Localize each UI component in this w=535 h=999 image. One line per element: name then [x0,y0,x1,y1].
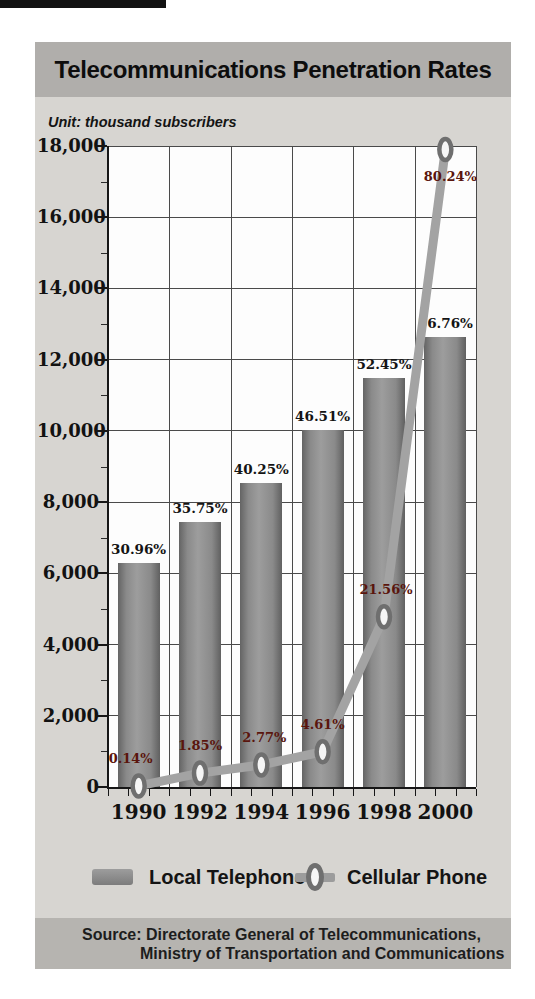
source-line-2: Ministry of Transportation and Communica… [140,944,504,963]
x-minor-tick [108,789,109,796]
y-major-tick [96,359,107,361]
x-axis-line [107,787,477,789]
x-minor-tick [353,789,354,796]
plot-region: 02,0004,0006,0008,00010,00012,00014,0001… [35,42,511,969]
x-axis-label-1998: 1998 [352,800,416,824]
y-major-tick [96,430,107,432]
scanned-page: Telecommunications Penetration Rates Uni… [0,0,535,999]
bar-label-1994: 40.25% [221,461,301,477]
y-major-tick [96,572,107,574]
y-axis-label: 2,000 [37,705,99,726]
legend-label-cellular-phone: Cellular Phone [347,866,487,889]
cellular-label-1990: 0.14% [91,751,171,766]
v-gridline [169,146,170,787]
bar-label-1990: 30.96% [99,541,179,557]
cellular-label-1998: 21.56% [346,582,426,597]
x-minor-tick [374,789,375,796]
x-minor-tick [128,789,129,796]
source-line-1: Source: Directorate General of Telecommu… [82,925,481,944]
y-axis-label: 0 [37,776,99,797]
y-major-tick [96,145,107,147]
y-major-tick [96,287,107,289]
y-major-tick [96,501,107,503]
x-minor-tick [231,789,232,796]
x-axis-label-1994: 1994 [229,800,293,824]
chart-card: Telecommunications Penetration Rates Uni… [35,42,511,969]
x-axis-label-1990: 1990 [107,800,171,824]
x-minor-tick [190,789,191,796]
x-minor-tick [435,789,436,796]
bar-label-1996: 46.51% [283,408,363,424]
x-minor-tick [149,789,150,796]
x-minor-tick [476,789,477,796]
bar-label-1998: 52.45% [344,356,424,372]
line-ring-swatch-icon [295,860,335,894]
y-axis-label: 12,000 [37,349,99,370]
y-major-tick [96,644,107,646]
x-minor-tick [169,789,170,796]
v-gridline [415,146,416,787]
legend-label-local-telephone: Local Telephone [149,866,305,889]
cellular-label-2000: 80.24% [410,169,490,184]
x-axis-label-1992: 1992 [168,800,232,824]
legend-item-local-telephone: Local Telephone [92,860,305,894]
legend: Local Telephone Cellular Phone [35,860,511,894]
bar-1996 [302,430,344,787]
y-major-tick [96,715,107,717]
x-minor-tick [272,789,273,796]
bar-2000 [424,337,466,787]
x-minor-tick [333,789,334,796]
page-edge-black-strip [0,0,166,8]
x-minor-tick [312,789,313,796]
x-minor-tick [292,789,293,796]
x-minor-tick [251,789,252,796]
bar-swatch-icon [92,869,133,885]
y-axis-label: 18,000 [37,135,99,156]
x-minor-tick [210,789,211,796]
y-major-tick [96,216,107,218]
y-axis-label: 14,000 [37,277,99,298]
bar-label-2000: 56.76% [405,315,485,331]
cellular-label-1994: 2.77% [224,730,304,745]
x-axis-label-2000: 2000 [413,800,477,824]
x-minor-tick [415,789,416,796]
x-axis-label-1996: 1996 [291,800,355,824]
v-gridline [353,146,354,787]
y-axis-line [107,146,109,789]
y-axis-label: 8,000 [37,491,99,512]
y-axis-label: 16,000 [37,206,99,227]
v-gridline [476,146,477,787]
x-minor-tick [394,789,395,796]
y-axis-label: 6,000 [37,562,99,583]
y-axis-label: 10,000 [37,420,99,441]
y-major-tick [96,786,107,788]
source-band: Source: Directorate General of Telecommu… [35,918,511,969]
ring-icon [309,866,322,889]
y-axis-label: 4,000 [37,634,99,655]
x-minor-tick [456,789,457,796]
cellular-label-1996: 4.61% [283,717,363,732]
legend-item-cellular-phone: Cellular Phone [295,860,487,894]
bar-label-1992: 35.75% [160,500,240,516]
